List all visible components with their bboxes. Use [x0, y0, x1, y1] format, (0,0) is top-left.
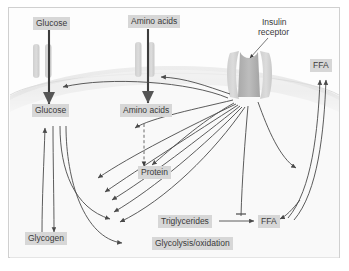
label-amino-acids-extracellular: Amino acids — [128, 15, 180, 28]
diagram-canvas — [0, 0, 349, 271]
label-triglycerides: Triglycerides — [158, 215, 212, 228]
label-glycolysis-oxidation: Glycolysis/oxidation — [152, 237, 233, 250]
label-ffa-extracellular: FFA — [310, 59, 332, 72]
figure-screenshot: Glucose Amino acids Insulin receptor FFA… — [0, 0, 349, 271]
label-glucose-intracellular: Glucose — [32, 104, 69, 117]
label-glycogen: Glycogen — [25, 232, 67, 245]
label-glucose-extracellular: Glucose — [33, 17, 70, 30]
label-amino-acids-intracellular: Amino acids — [120, 104, 172, 117]
label-insulin-receptor-line1: Insulin — [262, 17, 287, 28]
cell-membrane — [10, 66, 339, 258]
insulin-receptor-graphic — [227, 51, 272, 99]
label-ffa-intracellular: FFA — [258, 215, 280, 228]
label-insulin-receptor-line2: receptor — [258, 27, 289, 38]
label-protein: Protein — [138, 166, 171, 179]
